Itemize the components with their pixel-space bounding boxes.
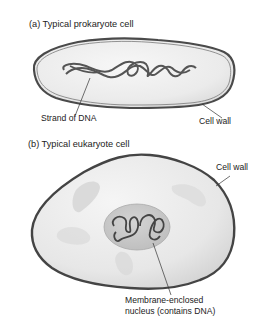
cell-wall-b-label: Cell wall [216,163,248,172]
nucleus-label-line1: Membrane-enclosed [125,296,203,305]
eukaryote-cell [32,155,234,295]
dna-label: Strand of DNA [41,114,96,123]
cell-wall-a-label: Cell wall [199,117,231,126]
panel-a-title: (a) Typical prokaryote cell [29,19,134,29]
nucleus-label-line2: nucleus (contains DNA) [125,307,215,316]
nucleus [104,204,170,250]
cell-wall-b-leader-line [216,176,230,186]
prokaryote-cell [34,38,235,118]
panel-b-title: (b) Typical eukaryote cell [28,139,129,149]
